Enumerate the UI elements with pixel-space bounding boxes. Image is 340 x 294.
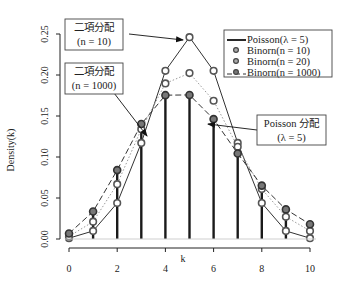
data-point xyxy=(282,206,289,213)
x-tick-label: 10 xyxy=(305,263,315,274)
y-tick-label: 0.10 xyxy=(39,148,50,166)
data-point xyxy=(307,235,314,242)
data-point xyxy=(186,34,193,41)
data-point xyxy=(210,97,217,104)
annotation-title: 二項分配 xyxy=(74,66,115,77)
data-point xyxy=(283,213,290,220)
x-tick-label: 4 xyxy=(163,263,168,274)
x-tick-label: 2 xyxy=(115,263,120,274)
data-point xyxy=(234,150,241,157)
data-point xyxy=(66,230,73,237)
data-point xyxy=(114,181,121,188)
annotation-subtitle: (n = 1000) xyxy=(72,80,117,92)
y-tick-label: 0.15 xyxy=(39,107,50,125)
y-tick-label: 0.00 xyxy=(39,230,50,248)
data-point xyxy=(283,228,290,235)
data-point xyxy=(307,221,314,228)
data-point xyxy=(259,200,266,207)
legend-point-icon xyxy=(234,59,239,64)
data-point xyxy=(258,182,265,189)
x-tick-label: 8 xyxy=(259,263,264,274)
data-point xyxy=(234,144,241,151)
legend-point-icon xyxy=(234,70,239,75)
y-axis-label: Density(k) xyxy=(5,129,17,172)
y-tick-label: 0.25 xyxy=(39,25,50,43)
data-point xyxy=(162,68,169,75)
data-point xyxy=(114,167,121,174)
legend-label: Binorn(n = 1000) xyxy=(247,67,321,79)
data-point xyxy=(90,208,97,215)
annotation-subtitle: (n = 10) xyxy=(77,36,111,48)
annotation-arrow xyxy=(114,93,147,136)
annotation-subtitle: (λ = 5) xyxy=(277,132,306,144)
annotation-arrow xyxy=(129,34,183,40)
x-tick-label: 6 xyxy=(211,263,216,274)
x-tick-label: 0 xyxy=(67,263,72,274)
data-point xyxy=(162,92,169,99)
data-point xyxy=(186,91,193,98)
y-tick-label: 0.20 xyxy=(39,66,50,84)
y-tick-label: 0.05 xyxy=(39,189,50,207)
data-point xyxy=(114,200,121,207)
data-point xyxy=(138,121,145,128)
data-point xyxy=(162,80,169,87)
density-chart: 0.000.050.100.150.200.25Density(k)024681… xyxy=(0,0,340,294)
legend-point-icon xyxy=(234,48,239,53)
data-point xyxy=(90,228,97,235)
data-point xyxy=(186,70,193,77)
x-axis-label: k xyxy=(181,253,186,264)
annotation-title: 二項分配 xyxy=(74,22,115,33)
annotation-title: Poisson 分配 xyxy=(264,118,320,129)
annotation-arrow xyxy=(208,124,257,130)
data-point xyxy=(90,218,97,225)
legend: Poisson(λ = 5)Binorn(n = 10)Binorn(n = 2… xyxy=(224,30,332,79)
data-point xyxy=(307,228,314,235)
data-point xyxy=(138,140,145,147)
data-point xyxy=(210,68,217,75)
data-point xyxy=(210,116,217,123)
